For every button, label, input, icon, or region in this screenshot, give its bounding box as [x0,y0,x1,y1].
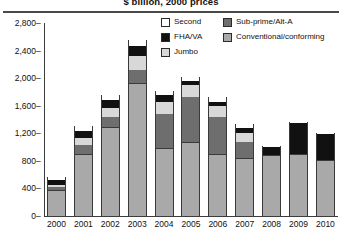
x-axis-label: 2003 [128,219,147,235]
x-axis-line [44,216,338,217]
bar-segment [289,154,308,216]
x-axis-label: 2001 [74,219,93,235]
bar-segment [128,46,147,56]
bar-segment [316,160,335,216]
bar-segment [181,85,200,97]
bar-segment [101,117,120,127]
bar-segment [235,158,254,216]
bar-segment [74,154,93,216]
x-axis-label: 2010 [316,219,335,235]
y-axis-tick: 0 – [31,211,44,221]
y-axis-tick: 400 – [22,183,44,193]
bar-segment [181,97,200,141]
bar-segment [208,117,227,154]
bar-segment [74,138,93,145]
bar-segment [155,114,174,148]
x-axis-label: 2007 [235,219,254,235]
bar-segment [128,70,147,83]
bar-segment [289,123,308,154]
bar-column[interactable] [74,126,93,216]
bar-segment [155,148,174,216]
x-axis-label: 2008 [262,219,281,235]
x-axis-labels: 2000200120022003200420052006200720082009… [44,219,338,235]
bar-segment [316,134,335,160]
chart-title: $ billion, 2000 prices [0,0,342,7]
bar-column[interactable] [181,77,200,216]
x-axis-label: 2004 [155,219,174,235]
bar-column[interactable] [262,146,281,216]
bar-segment [262,155,281,216]
bar-segment [128,56,147,70]
bar-column[interactable] [128,40,147,216]
bar-column[interactable] [155,91,174,216]
x-axis-label: 2005 [181,219,200,235]
bar-group [44,23,338,216]
bar-segment [235,133,254,142]
y-axis-tick: 2,400 – [15,46,44,56]
bar-segment [74,145,93,154]
bar-segment [128,83,147,216]
x-axis-label: 2002 [101,219,120,235]
y-axis-tick: 1,600 – [15,101,44,111]
bar-segment [155,102,174,114]
y-axis-tick: 2,000 – [15,73,44,83]
bar-segment [155,95,174,102]
x-axis-label: 2006 [208,219,227,235]
bar-column[interactable] [235,124,254,216]
bar-segment [101,108,120,117]
bar-segment [47,190,66,216]
x-axis-label: 2009 [289,219,308,235]
chart-container: $ billion, 2000 prices SecondSub-prime/A… [0,0,342,251]
y-axis-tick: 1,200 – [15,128,44,138]
plot-area: 0 –400 –800 –1,200 –1,600 –2,000 –2,400 … [44,23,338,216]
bar-column[interactable] [316,133,335,216]
bar-segment [208,154,227,216]
x-axis-label: 2000 [47,219,66,235]
bar-column[interactable] [47,177,66,216]
bar-segment [208,106,227,117]
bar-column[interactable] [289,122,308,216]
bar-segment [74,131,93,139]
y-axis-tick: 800 – [22,156,44,166]
bar-segment [101,127,120,216]
title-divider [3,11,339,13]
bar-segment [101,100,120,108]
bar-segment [235,142,254,159]
bar-segment [262,147,281,155]
bar-segment [181,142,200,216]
bar-column[interactable] [101,95,120,216]
bar-column[interactable] [208,97,227,216]
y-axis-tick: 2,800 – [15,18,44,28]
